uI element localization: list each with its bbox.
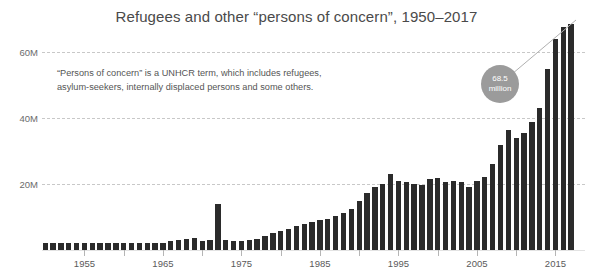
x-tick-mark-1955: [84, 250, 85, 256]
bar-1961: [129, 243, 134, 250]
bar-1996: [404, 182, 409, 250]
bar-1978: [262, 236, 267, 250]
bar-1963: [145, 243, 150, 250]
bar-2017: [568, 24, 573, 250]
bar-1990: [357, 201, 362, 250]
bar-1969: [192, 238, 197, 250]
bar-2013: [537, 108, 542, 250]
bar-2016: [561, 27, 566, 250]
x-tick-label-1955: 1955: [74, 258, 95, 269]
bar-1953: [66, 243, 71, 250]
x-tick-mark-2000: [438, 250, 439, 256]
x-tick-mark-2010: [516, 250, 517, 256]
bar-1965: [160, 243, 165, 250]
x-tick-label-1995: 1995: [388, 258, 409, 269]
x-tick-mark-1965: [163, 250, 164, 256]
definition-note: “Persons of concern” is a UNHCR term, wh…: [57, 66, 387, 94]
definition-note-line1: “Persons of concern” is a UNHCR term, wh…: [57, 66, 387, 80]
bar-1985: [317, 220, 322, 250]
bar-1981: [286, 229, 291, 250]
bar-1968: [184, 239, 189, 250]
bar-1987: [333, 216, 338, 250]
bar-1958: [105, 243, 110, 250]
callout-unit: million: [489, 84, 512, 94]
callout-value: 68.5: [492, 74, 508, 84]
gridline-40M: [42, 118, 585, 119]
bar-1986: [325, 219, 330, 250]
bar-2004: [466, 187, 471, 250]
y-tick-label-20M: 20M: [6, 179, 38, 190]
bar-2000: [435, 178, 440, 250]
bar-1976: [247, 240, 252, 250]
bar-1979: [270, 233, 275, 250]
bar-2012: [529, 122, 534, 250]
bar-2014: [545, 69, 550, 250]
bar-2007: [490, 164, 495, 250]
bar-1962: [137, 243, 142, 250]
x-tick-mark-1980: [281, 250, 282, 256]
x-tick-mark-1970: [202, 250, 203, 256]
bar-2010: [514, 138, 519, 250]
bar-1960: [121, 243, 126, 250]
bar-1952: [58, 243, 63, 250]
chart-container: Refugees and other “persons of concern”,…: [0, 0, 593, 280]
bar-1951: [50, 243, 55, 250]
x-tick-mark-1990: [359, 250, 360, 256]
bar-1971: [207, 240, 212, 250]
bar-1956: [90, 243, 95, 250]
bar-1991: [364, 193, 369, 250]
bar-1955: [82, 243, 87, 250]
bar-1983: [302, 224, 307, 250]
bar-1992: [372, 187, 377, 250]
bar-2001: [443, 182, 448, 250]
bar-2005: [474, 181, 479, 250]
bar-1964: [152, 243, 157, 250]
bar-1972: [215, 204, 220, 250]
x-tick-mark-1985: [320, 250, 321, 256]
bar-1993: [380, 184, 385, 250]
bar-2011: [521, 133, 526, 250]
plot-area: 20M40M60M 1955196519751985199520052015: [0, 0, 593, 280]
bar-1989: [349, 209, 354, 250]
x-tick-label-1975: 1975: [231, 258, 252, 269]
bar-1982: [294, 226, 299, 250]
bar-2009: [506, 130, 511, 250]
definition-note-line2: asylum-seekers, internally displaced per…: [57, 80, 387, 94]
bar-1974: [231, 241, 236, 250]
x-tick-label-2005: 2005: [466, 258, 487, 269]
gridline-20M: [42, 184, 585, 185]
bar-1967: [176, 240, 181, 250]
x-tick-mark-2015: [555, 250, 556, 256]
bar-1998: [419, 185, 424, 250]
final-value-callout: 68.5 million: [481, 65, 519, 103]
bar-1959: [113, 243, 118, 250]
x-tick-label-1965: 1965: [152, 258, 173, 269]
x-tick-label-1985: 1985: [309, 258, 330, 269]
bar-1988: [341, 213, 346, 250]
bar-2003: [459, 182, 464, 250]
x-tick-label-2015: 2015: [545, 258, 566, 269]
bar-1977: [254, 239, 259, 250]
bar-1973: [223, 240, 228, 250]
bar-1970: [200, 241, 205, 250]
bar-1997: [411, 184, 416, 250]
bar-2002: [451, 181, 456, 250]
y-tick-label-60M: 60M: [6, 47, 38, 58]
bar-1950: [43, 243, 48, 250]
bar-1966: [168, 241, 173, 250]
bar-1995: [396, 181, 401, 250]
x-tick-mark-1960: [124, 250, 125, 256]
bar-2008: [498, 145, 503, 250]
bar-1975: [239, 241, 244, 250]
bar-1994: [388, 174, 393, 250]
y-tick-label-40M: 40M: [6, 113, 38, 124]
bar-2015: [553, 39, 558, 250]
bar-1999: [427, 179, 432, 250]
x-tick-mark-2005: [477, 250, 478, 256]
gridline-60M: [42, 52, 585, 53]
x-tick-mark-1975: [241, 250, 242, 256]
bar-1980: [278, 231, 283, 250]
bar-1957: [97, 243, 102, 250]
bar-1984: [309, 222, 314, 250]
x-tick-mark-1995: [398, 250, 399, 256]
